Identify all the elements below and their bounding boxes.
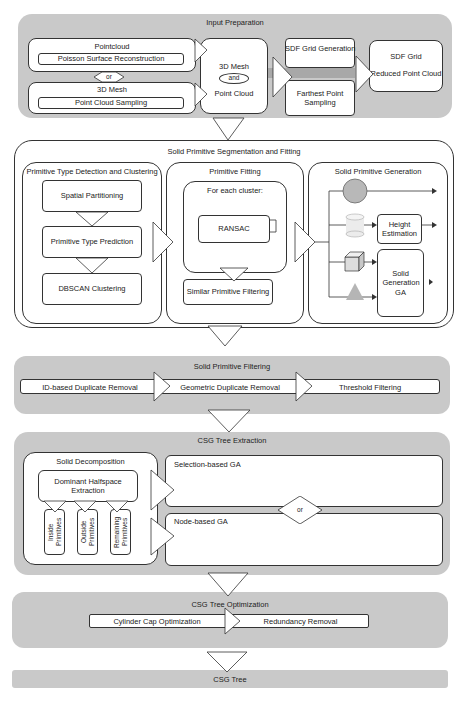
poisson-reconstruction-step: Poisson Surface Reconstruction [38, 53, 184, 65]
detection-title: Primitive Type Detection and Clustering [22, 167, 162, 176]
outside-primitives: Outside Primitives [77, 509, 98, 555]
extraction-title: CSG Tree Extraction [14, 436, 450, 445]
prediction-label: Primitive Type Prediction [51, 237, 133, 246]
mesh-label: 3D Mesh [28, 85, 196, 94]
similar-primitive-filtering-step: Similar Primitive Filtering [183, 279, 273, 305]
geometric-duplicate-label: Geometric Duplicate Removal [160, 383, 300, 392]
decomposition-title: Solid Decomposition [23, 457, 158, 466]
primitive-fitting-title: Primitive Fitting [166, 167, 304, 176]
redundancy-removal-label: Redundancy Removal [232, 617, 369, 626]
remaining-label: Remaining Primitives [113, 510, 129, 554]
dbscan-clustering-step: DBSCAN Clustering [42, 273, 142, 305]
height-estimation-label: Height Estimation [378, 220, 421, 239]
sdf-grid-output-box [369, 40, 443, 92]
solid-generation-ga-step: Solid Generation GA [377, 249, 424, 317]
sdf-generation-label: SDF Grid Generation [285, 44, 355, 53]
or-diamond-input: or [94, 72, 124, 82]
segmentation-fitting-title: Solid Primitive Segmentation and Fitting [14, 147, 454, 156]
and-label: and [229, 74, 240, 82]
solid-generation-title: Solid Primitive Generation [308, 167, 448, 176]
and-ellipse: and [219, 73, 249, 84]
cylinder-cap-label: Cylinder Cap Optimization [89, 617, 225, 626]
poisson-label: Poisson Surface Reconstruction [58, 54, 165, 63]
pointcloud-label: Pointcloud [28, 42, 196, 51]
dominant-label: Dominant Halfspace Extraction [39, 477, 137, 496]
or-diamond-extraction: or [278, 496, 322, 524]
inside-primitives: Inside Primitives [44, 509, 65, 555]
outside-label: Outside Primitives [80, 510, 96, 554]
spatial-partitioning-step: Spatial Partitioning [42, 180, 142, 212]
loop-label: For each cluster: [183, 186, 287, 195]
ransac-step: RANSAC [198, 215, 270, 243]
dominant-halfspace-step: Dominant Halfspace Extraction [38, 470, 138, 502]
mesh-and-pc-top: 3D Mesh [200, 62, 268, 71]
input-preparation-title: Input Preparation [18, 18, 452, 27]
reduced-pc-label: Reduced Point Cloud [369, 69, 443, 78]
inside-label: Inside Primitives [47, 510, 63, 554]
farthest-sampling-box: Farthest Point Sampling [285, 80, 355, 116]
arrow-down-icon [207, 652, 247, 672]
sampling-label: Point Cloud Sampling [75, 98, 147, 107]
optimization-title: CSG Tree Optimization [12, 600, 448, 609]
or-label: or [106, 73, 112, 81]
point-cloud-sampling-step: Point Cloud Sampling [38, 97, 184, 109]
arrow-down-icon [213, 118, 244, 140]
height-estimation-step: Height Estimation [377, 214, 422, 244]
filtering-title: Solid Primitive Filtering [14, 362, 450, 371]
farthest-sampling-label: Farthest Point Sampling [295, 89, 345, 108]
selection-ga-label: Selection-based GA [174, 460, 241, 469]
solid-generation-ga-label: Solid Generation GA [383, 269, 419, 297]
similar-filtering-label: Similar Primitive Filtering [187, 287, 270, 296]
dbscan-label: DBSCAN Clustering [58, 284, 125, 293]
sdf-generation-box [285, 38, 355, 68]
spatial-partitioning-label: Spatial Partitioning [61, 191, 124, 200]
csg-tree-title: CSG Tree [12, 675, 448, 684]
sdf-grid-label: SDF Grid [369, 52, 443, 61]
primitive-type-prediction-step: Primitive Type Prediction [42, 226, 142, 258]
threshold-label: Threshold Filtering [300, 383, 440, 392]
mesh-and-pc-bottom: Point Cloud [200, 89, 268, 98]
or-extraction-label: or [297, 506, 303, 514]
remaining-primitives: Remaining Primitives [110, 509, 131, 555]
arrow-down-icon [208, 326, 242, 346]
ransac-label: RANSAC [218, 224, 249, 233]
node-ga-label: Node-based GA [174, 517, 228, 526]
id-duplicate-label: ID-based Duplicate Removal [20, 383, 160, 392]
